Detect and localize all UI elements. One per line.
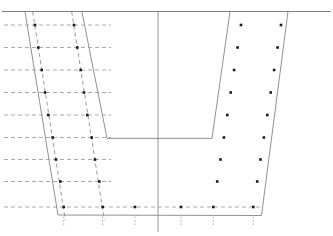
outer-excavation-outline bbox=[25, 12, 288, 216]
node-dot bbox=[134, 206, 137, 209]
node-dot bbox=[223, 136, 226, 139]
node-dot bbox=[44, 91, 47, 94]
drawing-canvas bbox=[0, 0, 333, 236]
node-dot bbox=[76, 46, 79, 49]
node-dot bbox=[83, 91, 86, 94]
node-dot bbox=[273, 69, 276, 72]
node-dot bbox=[240, 24, 243, 27]
node-dot bbox=[259, 158, 262, 161]
node-dot bbox=[101, 206, 104, 209]
node-dot bbox=[219, 158, 222, 161]
node-dot bbox=[266, 114, 269, 117]
node-dot bbox=[55, 158, 58, 161]
node-dot bbox=[256, 180, 259, 183]
node-dot bbox=[94, 158, 97, 161]
node-dot bbox=[236, 46, 239, 49]
node-dot bbox=[269, 91, 272, 94]
node-dot bbox=[212, 206, 215, 209]
node-dot bbox=[51, 136, 54, 139]
node-dot bbox=[37, 46, 40, 49]
node-dot bbox=[34, 24, 37, 27]
node-dot bbox=[276, 46, 279, 49]
node-dot bbox=[62, 206, 65, 209]
node-dot bbox=[79, 69, 82, 72]
node-dot bbox=[59, 180, 62, 183]
node-dot bbox=[98, 180, 101, 183]
node-dot bbox=[216, 180, 219, 183]
node-dot bbox=[180, 206, 183, 209]
node-dot bbox=[86, 114, 89, 117]
node-dot bbox=[280, 24, 283, 27]
node-dot bbox=[229, 91, 232, 94]
node-dot bbox=[226, 114, 229, 117]
node-dot bbox=[90, 136, 93, 139]
node-dot bbox=[47, 114, 50, 117]
node-dot bbox=[263, 136, 266, 139]
node-dot bbox=[73, 24, 76, 27]
excavation-cross-section-svg bbox=[0, 0, 333, 236]
node-dot bbox=[252, 206, 255, 209]
node-dot bbox=[233, 69, 236, 72]
node-dot bbox=[40, 69, 43, 72]
inner-excavation-outline bbox=[82, 12, 230, 139]
